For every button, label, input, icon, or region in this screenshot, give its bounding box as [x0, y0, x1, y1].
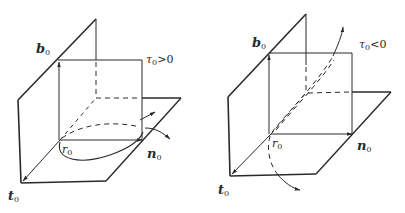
- space-curve-lower-solid: [278, 175, 300, 190]
- osculating-plane-hidden-diagonal: [60, 98, 96, 140]
- rectifying-plane: [18, 19, 96, 183]
- right-t0-label: t0: [218, 182, 229, 198]
- right-b0-label: b0: [252, 35, 266, 51]
- space-curve-hidden: [62, 124, 140, 138]
- right-n0-label: n0: [357, 138, 372, 154]
- right-r0-label: r0: [272, 137, 282, 151]
- right-torsion-label: τ0<0: [359, 38, 386, 52]
- left-torsion-label: τ0>0: [146, 53, 173, 67]
- space-curve-hidden-2: [276, 60, 334, 130]
- space-curve-hidden: [272, 58, 332, 132]
- tangent-vector: [232, 134, 271, 174]
- tangent-vector: [23, 140, 60, 181]
- frenet-frame-figure: b0 τ0>0 r0 n0 t0 b0 τ0<0: [0, 0, 405, 213]
- left-n0-label: n0: [147, 146, 162, 162]
- osculating-plane-hidden-diagonal: [271, 93, 306, 134]
- osculating-plane-hidden-edge: [308, 92, 350, 93]
- left-t0-label: t0: [8, 188, 19, 204]
- left-r0-label: r0: [62, 143, 72, 157]
- space-curve-upper-solid: [333, 27, 343, 56]
- rectifying-plane: [228, 14, 306, 176]
- left-b0-label: b0: [36, 41, 50, 57]
